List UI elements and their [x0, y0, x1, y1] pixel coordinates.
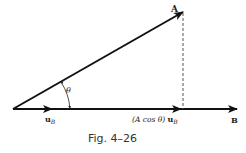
unit-vector-subscript: B [50, 118, 56, 125]
unit-vector-label: uB [45, 114, 56, 125]
vector-projection-diagram: A B θ uB (A cos θ) uB Fig. 4–26 [0, 0, 246, 153]
projection-scalar: (A cos θ) [132, 115, 168, 124]
vector-a-label: A [170, 4, 179, 14]
figure-caption: Fig. 4–26 [88, 132, 137, 145]
vector-b-label: B [231, 115, 238, 125]
projection-label: (A cos θ) uB [132, 114, 178, 125]
angle-theta-label: θ [66, 86, 71, 95]
projection-unit-subscript: B [172, 118, 178, 125]
vector-a-line [13, 12, 183, 109]
